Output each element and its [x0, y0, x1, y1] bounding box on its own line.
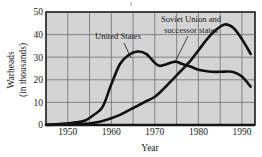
y-tick-label: 30 [34, 53, 44, 63]
x-tick-label: 1950 [58, 127, 77, 137]
warheads-line-chart: 01020304050 19501960197019801990 Year Wa… [0, 0, 262, 157]
y-axis-title-line1: Warheads [6, 51, 16, 89]
plot-area-background [46, 12, 255, 125]
y-tick-label: 0 [38, 120, 43, 130]
y-axis-tick-labels: 01020304050 [34, 7, 44, 130]
soviet-union-annotation-label-line1: Soviet Union and [161, 14, 222, 24]
soviet-union-annotation-label-line2: successor states [164, 25, 219, 35]
y-axis-title-line2: (in thousands) [18, 43, 29, 97]
x-tick-label: 1990 [232, 127, 251, 137]
x-tick-label: 1970 [145, 127, 164, 137]
x-tick-label: 1980 [189, 127, 208, 137]
x-axis-title: Year [141, 143, 159, 153]
united-states-annotation-label: United States [95, 31, 142, 41]
chart-container: 01020304050 19501960197019801990 Year Wa… [0, 0, 262, 157]
y-tick-label: 50 [34, 7, 44, 17]
x-axis-tick-labels: 19501960197019801990 [58, 127, 251, 137]
scan-artifact-speck [130, 2, 132, 6]
y-tick-label: 20 [34, 75, 44, 85]
y-tick-label: 40 [34, 30, 44, 40]
y-tick-label: 10 [34, 98, 44, 108]
x-tick-label: 1960 [102, 127, 121, 137]
